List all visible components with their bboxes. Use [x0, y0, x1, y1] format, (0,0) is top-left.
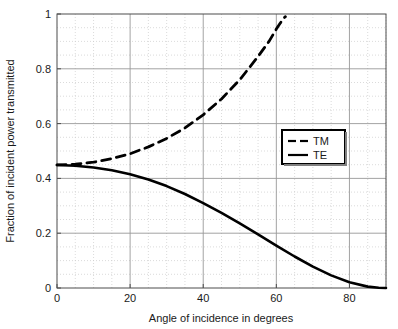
- y-tick-label: 0.8: [36, 63, 51, 75]
- y-tick-labels: 00.20.40.60.81: [36, 8, 51, 294]
- legend-shadow-right: [345, 132, 347, 166]
- y-tick-label: 0: [45, 282, 51, 294]
- x-tick-labels: 020406080: [54, 292, 356, 304]
- x-tick-label: 60: [270, 292, 282, 304]
- y-tick-label: 0.4: [36, 172, 51, 184]
- x-tick-label: 80: [343, 292, 355, 304]
- x-tick-label: 0: [54, 292, 60, 304]
- x-axis-title: Angle of incidence in degrees: [149, 312, 294, 324]
- series-line-tm: [57, 17, 285, 165]
- legend-label-tm: TM: [313, 135, 329, 147]
- chart-canvas: 020406080 00.20.40.60.81 Angle of incide…: [0, 0, 398, 329]
- legend[interactable]: TM TE: [282, 130, 347, 166]
- legend-shadow-bottom: [284, 164, 347, 166]
- y-tick-label: 0.6: [36, 118, 51, 130]
- legend-label-te: TE: [313, 149, 327, 161]
- y-tick-label: 1: [45, 8, 51, 20]
- y-tick-label: 0.2: [36, 227, 51, 239]
- y-axis-title: Fraction of incident power transmitted: [4, 59, 16, 242]
- x-tick-label: 20: [124, 292, 136, 304]
- figure-container: 020406080 00.20.40.60.81 Angle of incide…: [0, 0, 398, 329]
- x-tick-label: 40: [197, 292, 209, 304]
